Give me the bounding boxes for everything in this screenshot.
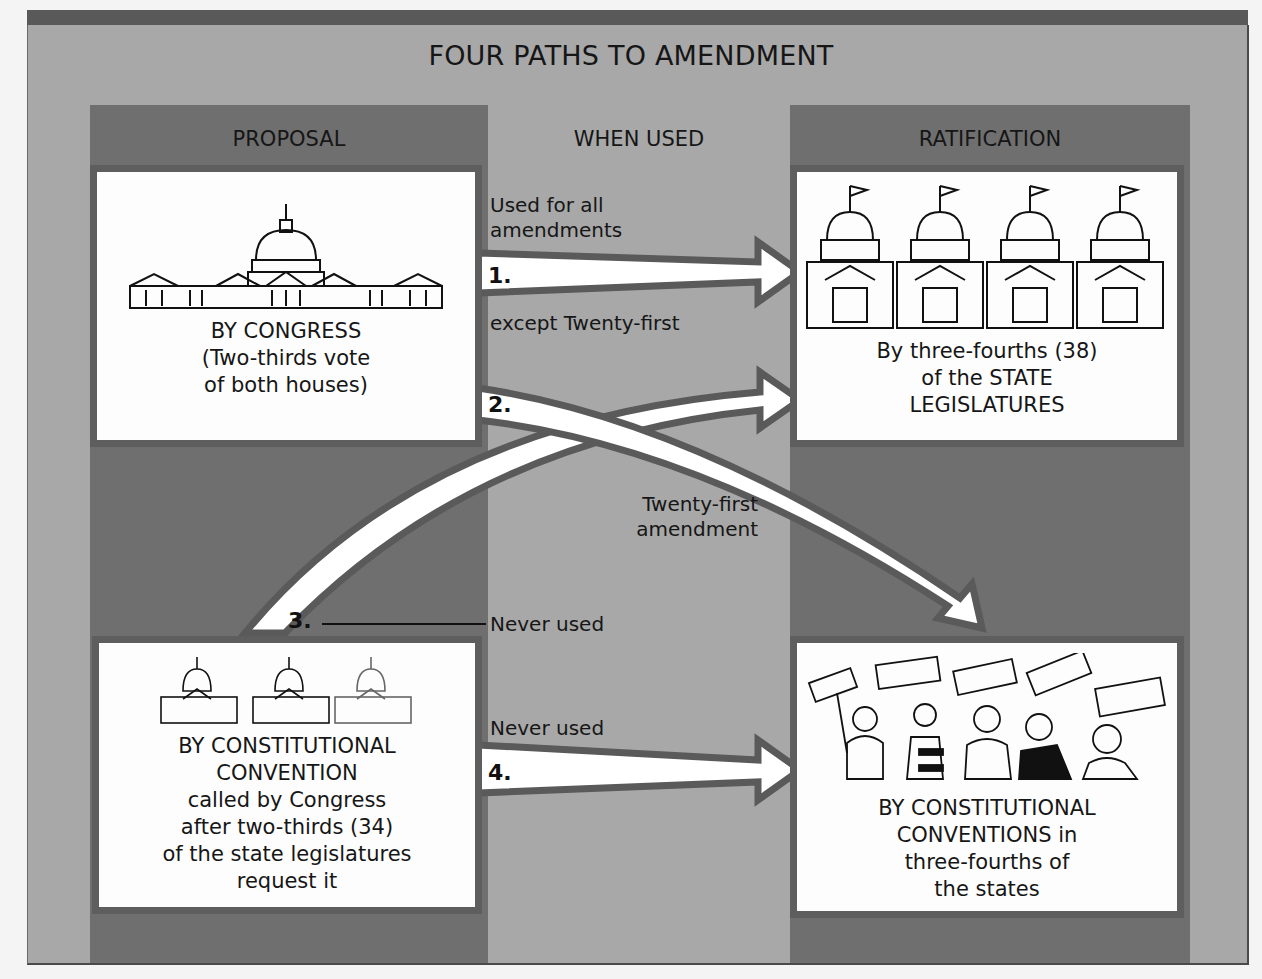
box-state-legislatures: By three-fourths (38) of the STATE LEGIS… bbox=[790, 165, 1184, 447]
path-3-number: 3. bbox=[288, 608, 312, 633]
three-capitols-icon bbox=[157, 655, 417, 725]
path-2-number: 2. bbox=[488, 392, 512, 417]
path-1-note-below: except Twenty-first bbox=[490, 311, 680, 336]
box-constitutional-convention: BY CONSTITUTIONAL CONVENTION called by C… bbox=[92, 636, 482, 914]
convention-box-text: BY CONSTITUTIONAL CONVENTION called by C… bbox=[162, 733, 411, 895]
state-conventions-box-text: BY CONSTITUTIONAL CONVENTIONS in three-f… bbox=[878, 795, 1096, 903]
capitol-building-icon bbox=[126, 202, 446, 310]
path-1-number: 1. bbox=[488, 263, 512, 288]
protesters-with-signs-icon bbox=[807, 653, 1167, 783]
box-by-congress: BY CONGRESS (Two-thirds vote of both hou… bbox=[90, 165, 482, 447]
state-legislatures-box-text: By three-fourths (38) of the STATE LEGIS… bbox=[876, 338, 1097, 419]
four-state-capitols-icon bbox=[805, 182, 1169, 332]
congress-box-text: BY CONGRESS (Two-thirds vote of both hou… bbox=[202, 318, 371, 399]
path-4-note: Never used bbox=[490, 716, 604, 741]
path-2-note: Twenty-first amendment bbox=[624, 492, 758, 542]
box-state-conventions: BY CONSTITUTIONAL CONVENTIONS in three-f… bbox=[790, 636, 1184, 918]
path-4-number: 4. bbox=[488, 760, 512, 785]
path-3-note: Never used bbox=[490, 612, 604, 637]
arrow-path-4 bbox=[478, 740, 800, 800]
arrow-path-1 bbox=[478, 242, 800, 302]
path-1-note-above: Used for all amendments bbox=[490, 193, 622, 243]
